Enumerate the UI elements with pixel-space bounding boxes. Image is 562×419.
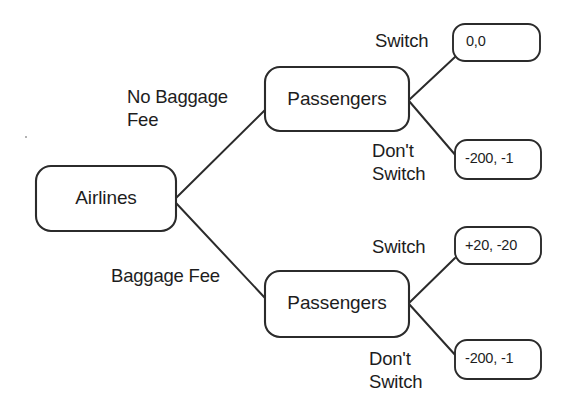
edge-label-top-dont-switch: Don't Switch [372,140,425,185]
node-label-airlines: Airlines [36,188,176,209]
payoff-label-top-dont-switch: -200, -1 [465,151,513,167]
edge-label-bottom-dont-switch: Don't Switch [369,348,422,393]
edge-label-bottom-switch: Switch [372,236,425,259]
tree-text-layer: Airlines Passengers Passengers No Baggag… [0,0,562,419]
edge-label-baggage-fee: Baggage Fee [111,265,220,288]
scan-speck [25,136,27,138]
game-tree-diagram: Airlines Passengers Passengers No Baggag… [0,0,562,419]
payoff-label-bottom-dont-switch: -200, -1 [465,351,513,367]
node-label-passengers-top: Passengers [265,89,409,110]
edge-label-top-switch: Switch [375,30,428,53]
node-label-passengers-bottom: Passengers [265,293,409,314]
edge-label-no-baggage-fee: No Baggage Fee [127,86,228,131]
payoff-label-top-switch: 0,0 [466,34,486,50]
payoff-label-bottom-switch: +20, -20 [465,238,517,254]
